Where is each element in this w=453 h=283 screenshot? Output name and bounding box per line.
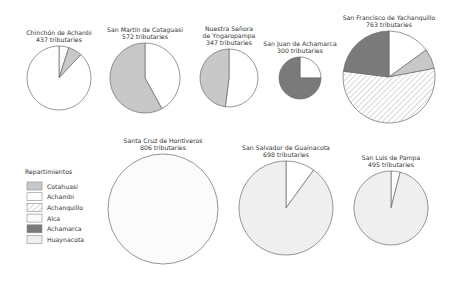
legend-item-achambi: Achambi	[27, 193, 74, 201]
pie-subtitle: 806 tributaries	[140, 144, 186, 151]
repartimientos-pie-charts: Chinchón de Achanbi437 tributariesSan Ma…	[0, 0, 453, 283]
pie-san-francisco-de-yachanquillo: San Francisco de Yachanquillo763 tributa…	[343, 14, 436, 123]
pie-group: Chinchón de Achanbi437 tributariesSan Ma…	[26, 14, 435, 264]
legend-item-cotahuasi: Cotahuasi	[27, 182, 78, 190]
pie-san-martin-de-cotaguasi: San Martín de Cotaguasi572 tributaries	[107, 26, 183, 113]
legend-swatch	[27, 182, 42, 190]
legend-swatch	[27, 236, 42, 244]
legend-swatch	[27, 193, 42, 201]
pie-subtitle: 495 tributaries	[368, 161, 414, 168]
legend-label: Achambi	[47, 193, 74, 200]
slice-achambi	[300, 57, 321, 78]
pie-san-luis-de-pampa: San Luis de Pampa495 tributaries	[354, 154, 428, 245]
slice-achambi	[225, 49, 258, 107]
slice-huaynacota	[354, 171, 428, 245]
pie-san-juan-de-achamarca: San Juan de Achamarca300 tributaries	[263, 40, 337, 99]
pie-title: Chinchón de Achanbi	[26, 29, 92, 36]
legend: RepartimientosCotahuasiAchambiAchanquill…	[25, 168, 84, 244]
pie-title: Santa Cruz de Hontiveros	[124, 137, 203, 144]
legend-item-huaynacota: Huaynacota	[27, 236, 84, 245]
pie-santa-cruz-de-hontiveros: Santa Cruz de Hontiveros806 tributaries	[108, 137, 218, 264]
slice-cotahuasi	[200, 49, 229, 107]
slice-alca	[108, 154, 218, 264]
pie-title: San Salvador de Guainacota	[242, 144, 330, 151]
legend-label: Cotahuasi	[47, 183, 78, 190]
slice-huaynacota	[239, 161, 333, 255]
legend-label: Huaynacota	[47, 236, 84, 244]
pie-nuestra-senora-de-yngaropampa: Nuestra Señorade Yngaropampa347 tributar…	[200, 25, 258, 107]
pie-san-salvador-de-guainacota: San Salvador de Guainacota698 tributarie…	[239, 144, 333, 255]
legend-item-achamarca: Achamarca	[27, 225, 82, 233]
legend-item-achanquillo: Achanquillo	[27, 203, 83, 212]
legend-title: Repartimientos	[25, 168, 72, 176]
slice-achambi	[27, 46, 91, 110]
legend-swatch	[27, 214, 42, 222]
pie-title: Nuestra Señora	[205, 25, 253, 32]
legend-label: Achanquillo	[47, 204, 83, 212]
pie-subtitle: 698 tributaries	[263, 151, 309, 158]
legend-swatch	[27, 225, 42, 233]
slice-achamarca	[343, 31, 389, 77]
legend-label: Achamarca	[47, 225, 82, 232]
pie-subtitle: 763 tributaries	[366, 21, 412, 28]
legend-label: Alca	[47, 215, 60, 222]
pie-subtitle: 300 tributaries	[277, 47, 323, 54]
legend-swatch	[27, 203, 42, 211]
pie-chinchon-de-achanbi: Chinchón de Achanbi437 tributaries	[26, 29, 92, 110]
legend-item-alca: Alca	[27, 214, 60, 222]
pie-subtitle: 437 tributaries	[36, 36, 82, 43]
pie-subtitle: 347 tributaries	[206, 39, 252, 46]
pie-subtitle: 572 tributaries	[122, 33, 168, 40]
